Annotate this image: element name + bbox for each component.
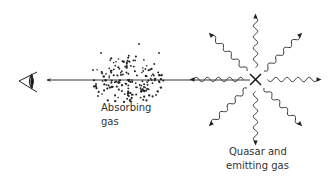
absorbing-gas-label-line1: Absorbing <box>101 101 151 114</box>
quasar-x-icon <box>250 74 261 85</box>
absorbing-gas-label-line2: gas <box>101 115 119 128</box>
eye-icon <box>19 72 37 92</box>
absorbing-gas-cloud <box>92 43 164 103</box>
quasar-label-line2: emitting gas <box>226 159 289 172</box>
quasar-label-line1: Quasar and <box>229 145 287 158</box>
